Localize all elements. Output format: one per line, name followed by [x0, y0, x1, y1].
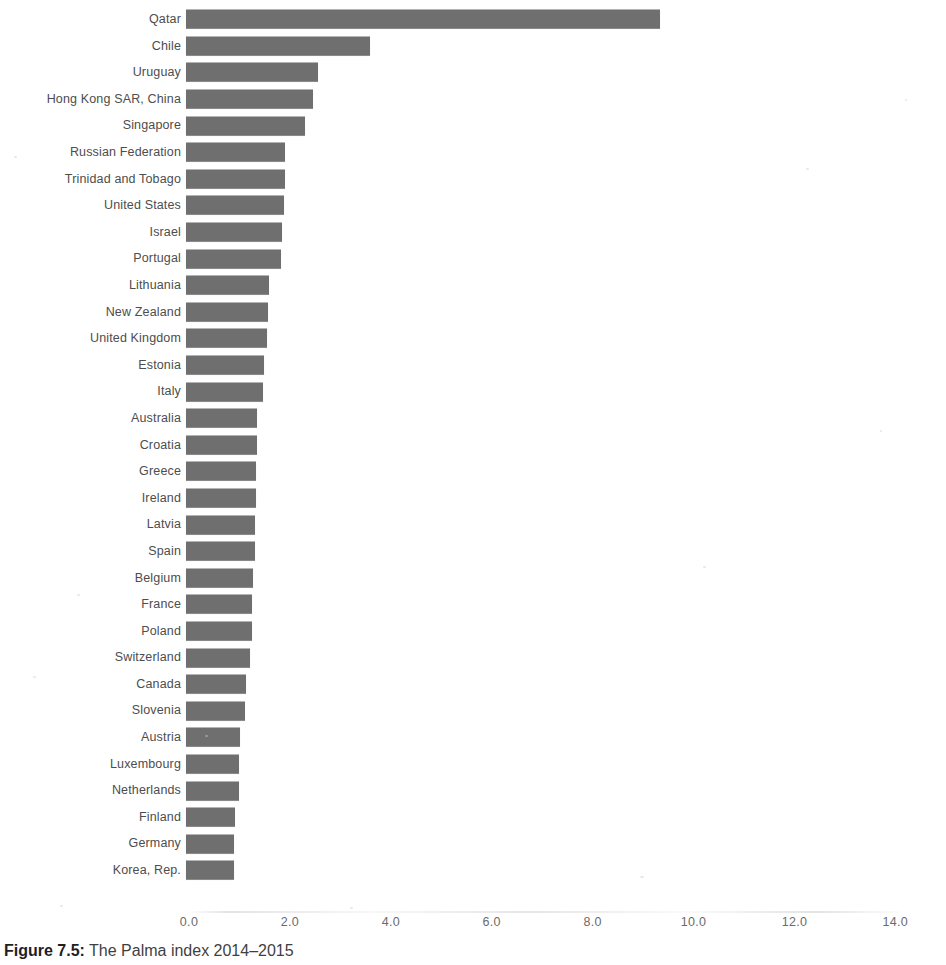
category-label: Netherlands	[0, 784, 181, 797]
bar-chart-plot-area: QatarChileUruguayHong Kong SAR, ChinaSin…	[0, 6, 946, 912]
x-tick-label: 8.0	[583, 915, 601, 929]
category-label: United Kingdom	[0, 332, 181, 345]
x-tick-label: 4.0	[382, 915, 400, 929]
bar-track	[186, 356, 946, 375]
caption-text: The Palma index 2014–2015	[85, 942, 294, 959]
bar	[186, 276, 269, 295]
bar	[186, 675, 246, 694]
bar-row: Portugal	[0, 245, 946, 272]
bar-track	[186, 568, 946, 587]
bar-row: Qatar	[0, 6, 946, 33]
bar-row: Greece	[0, 458, 946, 485]
bar	[186, 143, 285, 162]
bar	[186, 808, 235, 827]
bar-track	[186, 276, 946, 295]
category-label: Trinidad and Tobago	[0, 173, 181, 186]
bar-row: Uruguay	[0, 59, 946, 86]
axis-baseline	[186, 911, 902, 913]
bar-row: Israel	[0, 219, 946, 246]
bar	[186, 116, 305, 135]
bar-track	[186, 329, 946, 348]
category-label: Lithuania	[0, 279, 181, 292]
category-label: Germany	[0, 837, 181, 850]
bar	[186, 63, 318, 82]
category-label: Croatia	[0, 439, 181, 452]
bar-track	[186, 515, 946, 534]
bar	[186, 382, 263, 401]
bar	[186, 10, 660, 29]
bar-row: Belgium	[0, 564, 946, 591]
category-label: France	[0, 598, 181, 611]
bar	[186, 542, 255, 561]
bar	[186, 595, 252, 614]
bar	[186, 754, 239, 773]
category-label: Korea, Rep.	[0, 864, 181, 877]
bar	[186, 515, 255, 534]
bar-row: Germany	[0, 830, 946, 857]
bar	[186, 329, 267, 348]
bar	[186, 223, 282, 242]
bar	[186, 36, 370, 55]
category-label: Qatar	[0, 13, 181, 26]
bar-row: France	[0, 591, 946, 618]
bar-row: Russian Federation	[0, 139, 946, 166]
bar-track	[186, 861, 946, 880]
bar-row: Poland	[0, 618, 946, 645]
bar-track	[186, 781, 946, 800]
bar-row: Italy	[0, 378, 946, 405]
bar-row: Latvia	[0, 511, 946, 538]
bar-row: Singapore	[0, 112, 946, 139]
category-label: Luxembourg	[0, 758, 181, 771]
bar-row: Finland	[0, 804, 946, 831]
bar	[186, 781, 239, 800]
category-label: Hong Kong SAR, China	[0, 93, 181, 106]
bar-track	[186, 834, 946, 853]
x-tick-label: 10.0	[681, 915, 707, 929]
bar-track	[186, 409, 946, 428]
bar-row: Spain	[0, 538, 946, 565]
bar-row: Luxembourg	[0, 751, 946, 778]
category-label: Portugal	[0, 252, 181, 265]
category-label: Italy	[0, 385, 181, 398]
bar-row: Austria	[0, 724, 946, 751]
bar-track	[186, 648, 946, 667]
bar-row: Croatia	[0, 432, 946, 459]
bar	[186, 169, 285, 188]
bar-row: Ireland	[0, 485, 946, 512]
x-tick-label: 0.0	[180, 915, 198, 929]
bar	[186, 568, 253, 587]
caption-label: Figure 7.5:	[4, 942, 85, 959]
category-label: Poland	[0, 625, 181, 638]
bar-row: Australia	[0, 405, 946, 432]
category-label: United States	[0, 199, 181, 212]
bar-track	[186, 462, 946, 481]
bar-row: Estonia	[0, 352, 946, 379]
category-label: Finland	[0, 811, 181, 824]
bar	[186, 196, 284, 215]
x-axis-tick-labels: 0.02.04.06.08.010.012.014.0	[0, 915, 946, 937]
bar	[186, 302, 268, 321]
bar	[186, 462, 256, 481]
bar-track	[186, 675, 946, 694]
bar-row: Netherlands	[0, 777, 946, 804]
category-label: New Zealand	[0, 306, 181, 319]
bar-track	[186, 10, 946, 29]
bar-track	[186, 488, 946, 507]
bar	[186, 861, 234, 880]
bar-track	[186, 595, 946, 614]
bar-track	[186, 63, 946, 82]
category-label: Switzerland	[0, 651, 181, 664]
category-label: Russian Federation	[0, 146, 181, 159]
category-label: Canada	[0, 678, 181, 691]
category-label: Spain	[0, 545, 181, 558]
bar-row: New Zealand	[0, 299, 946, 326]
category-label: Chile	[0, 40, 181, 53]
x-tick-label: 12.0	[782, 915, 808, 929]
figure-palma-index: QatarChileUruguayHong Kong SAR, ChinaSin…	[0, 0, 946, 965]
bar	[186, 728, 240, 747]
bar-track	[186, 223, 946, 242]
bar	[186, 488, 256, 507]
figure-caption: Figure 7.5: The Palma index 2014–2015	[4, 941, 294, 960]
bar-row: Korea, Rep.	[0, 857, 946, 884]
category-label: Austria	[0, 731, 181, 744]
